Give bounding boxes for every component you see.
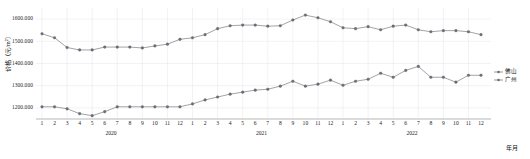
x-tick-label: 8	[279, 121, 282, 127]
data-point	[191, 36, 194, 39]
x-tick-label: 7	[417, 121, 420, 127]
series-1	[41, 14, 483, 52]
data-point	[241, 24, 244, 27]
x-year-label: 2022	[406, 131, 417, 137]
series-line	[42, 15, 481, 50]
y-axis-title: 价格（元/m²）	[3, 22, 12, 84]
data-point	[266, 88, 269, 91]
legend-marker-icon	[494, 69, 503, 75]
data-point	[292, 80, 295, 83]
data-point	[128, 46, 131, 49]
x-tick-label: 6	[254, 121, 257, 127]
data-point	[241, 91, 244, 94]
data-point	[154, 105, 157, 108]
data-point	[392, 76, 395, 79]
data-point	[53, 105, 56, 108]
data-point	[367, 25, 370, 28]
data-point	[342, 84, 345, 87]
data-point	[166, 105, 169, 108]
data-point	[204, 99, 207, 102]
x-tick-label: 5	[392, 121, 395, 127]
x-tick-label: 10	[453, 121, 459, 127]
y-tick-label: 1300.000	[12, 83, 33, 88]
x-tick-label: 1	[342, 121, 345, 127]
x-tick-label: 12	[478, 121, 484, 127]
x-tick-label: 9	[291, 121, 294, 127]
data-point	[379, 28, 382, 31]
data-point	[467, 74, 470, 77]
data-point	[116, 46, 119, 49]
price-trend-chart: 1200.0001300.0001400.0001500.0001600.000…	[0, 0, 530, 159]
x-tick-label: 6	[103, 121, 106, 127]
x-tick-label: 3	[66, 121, 69, 127]
data-point	[304, 14, 307, 17]
data-point	[392, 25, 395, 28]
x-tick-label: 1	[41, 121, 44, 127]
legend-label: 广州	[505, 77, 517, 83]
data-point	[103, 110, 106, 113]
data-point	[53, 36, 56, 39]
data-point	[480, 74, 483, 77]
series-2	[41, 65, 483, 117]
data-point	[442, 76, 445, 79]
x-tick-label: 2	[354, 121, 357, 127]
data-point	[78, 49, 81, 52]
x-tick-label: 11	[315, 121, 320, 127]
x-tick-label: 6	[404, 121, 407, 127]
data-point	[354, 27, 357, 30]
x-tick-label: 8	[429, 121, 432, 127]
data-point	[317, 83, 320, 86]
x-tick-label: 3	[367, 121, 370, 127]
x-tick-label: 2	[204, 121, 207, 127]
data-point	[279, 24, 282, 27]
x-tick-label: 1	[191, 121, 194, 127]
data-point	[229, 93, 232, 96]
plot-area	[36, 8, 491, 119]
data-point	[442, 29, 445, 32]
x-tick-label: 12	[328, 121, 334, 127]
x-year-label: 2021	[256, 131, 267, 137]
data-point	[417, 28, 420, 31]
data-point	[417, 65, 420, 68]
data-point	[103, 46, 106, 49]
x-tick-label: 9	[442, 121, 445, 127]
data-point	[354, 80, 357, 83]
x-tick-label: 5	[91, 121, 94, 127]
data-point	[141, 105, 144, 108]
data-point	[304, 85, 307, 88]
legend-item-1[interactable]: 佛山	[494, 68, 530, 76]
data-point	[467, 30, 470, 33]
data-point	[204, 33, 207, 36]
data-point	[404, 69, 407, 72]
data-point	[329, 79, 332, 82]
legend-label: 佛山	[505, 69, 517, 75]
data-point	[254, 24, 257, 27]
x-tick-label: 10	[152, 121, 158, 127]
data-point	[191, 103, 194, 106]
x-tick-label: 3	[216, 121, 219, 127]
x-axis-title: 年月	[506, 143, 518, 152]
x-tick-label: 5	[241, 121, 244, 127]
y-tick-label: 1500.000	[12, 39, 33, 44]
x-tick-label: 8	[128, 121, 131, 127]
data-point	[216, 96, 219, 99]
data-point	[429, 30, 432, 33]
data-point	[179, 105, 182, 108]
legend: 佛山广州	[494, 68, 530, 84]
x-tick-label: 4	[78, 121, 81, 127]
data-point	[66, 107, 69, 110]
data-point	[216, 27, 219, 30]
legend-item-2[interactable]: 广州	[494, 76, 530, 84]
data-point	[66, 46, 69, 49]
legend-marker-icon	[494, 77, 503, 83]
data-point	[254, 89, 257, 92]
data-point	[154, 45, 157, 48]
data-point	[91, 114, 94, 117]
x-tick-label: 12	[177, 121, 183, 127]
data-point	[317, 16, 320, 19]
data-point	[179, 38, 182, 41]
data-point	[455, 29, 458, 32]
data-point	[329, 20, 332, 23]
data-point	[480, 33, 483, 36]
data-point	[429, 76, 432, 79]
